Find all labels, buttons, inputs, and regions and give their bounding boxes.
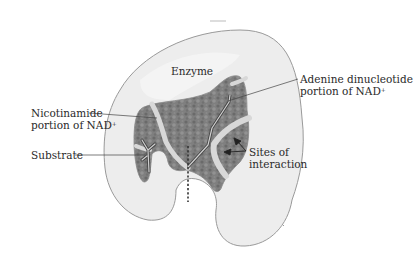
diagram-stage: Enzyme Adenine dinucleotide portion of N… — [0, 0, 419, 270]
label-nicotinamide-line1: Nicotinamide — [31, 107, 117, 119]
label-enzyme-text: Enzyme — [171, 65, 213, 77]
label-nicotinamide-line2-text: portion of NAD — [31, 119, 112, 131]
label-sites-line2: interaction — [249, 158, 307, 170]
label-nicotinamide-line2: portion of NAD+ — [31, 119, 117, 131]
label-sites-line1: Sites of — [249, 146, 307, 158]
label-adenine-sup: + — [381, 86, 386, 93]
enzyme-diagram — [0, 0, 419, 270]
label-sites-of-interaction: Sites of interaction — [249, 146, 307, 170]
label-substrate: Substrate — [31, 149, 83, 161]
label-substrate-text: Substrate — [31, 149, 83, 161]
label-nicotinamide: Nicotinamide portion of NAD+ — [31, 107, 117, 131]
label-adenine-line2-text: portion of NAD — [300, 85, 381, 97]
label-adenine-dinucleotide: Adenine dinucleotide portion of NAD+ — [300, 73, 413, 97]
label-adenine-line2: portion of NAD+ — [300, 85, 413, 97]
label-nicotinamide-sup: + — [112, 120, 117, 127]
label-enzyme: Enzyme — [171, 65, 213, 77]
label-adenine-line1: Adenine dinucleotide — [300, 73, 413, 85]
